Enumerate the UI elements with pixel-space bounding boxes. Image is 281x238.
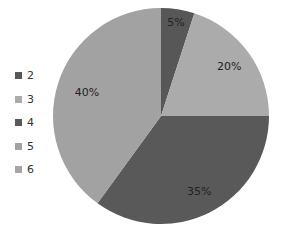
legend-swatch (15, 143, 22, 150)
legend-label: 5 (27, 140, 34, 153)
legend-swatch (15, 119, 22, 126)
pie-slices (53, 8, 269, 224)
legend-label: 2 (27, 69, 34, 82)
legend-item-2: 2 (15, 64, 34, 88)
pie-chart: 5%20%35%40% (0, 0, 281, 238)
slice-label: 20% (217, 60, 241, 73)
legend-swatch (15, 72, 22, 79)
legend: 2 3 4 5 6 (15, 64, 34, 182)
legend-label: 3 (27, 93, 34, 106)
slice-label: 35% (187, 185, 211, 198)
slice-label: 40% (75, 86, 99, 99)
legend-swatch (15, 96, 22, 103)
legend-label: 6 (27, 163, 34, 176)
slice-label: 5% (167, 16, 184, 29)
legend-item-3: 3 (15, 88, 34, 112)
legend-item-6: 6 (15, 158, 34, 182)
legend-item-5: 5 (15, 135, 34, 159)
legend-swatch (15, 166, 22, 173)
legend-label: 4 (27, 116, 34, 129)
legend-item-4: 4 (15, 111, 34, 135)
